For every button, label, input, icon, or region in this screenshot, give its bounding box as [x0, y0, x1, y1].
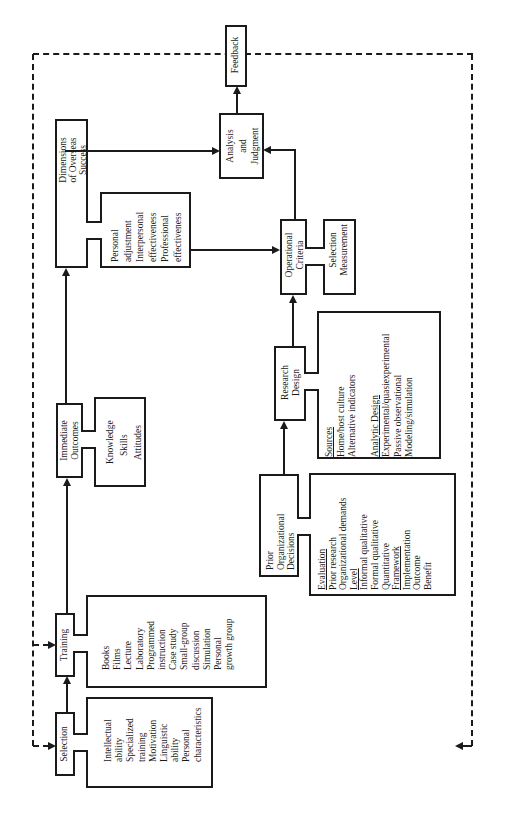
selection-connector — [73, 733, 88, 752]
research-design-label: Research Design — [280, 355, 302, 410]
feedback-loop-top — [33, 53, 473, 55]
detail-item: growth group — [224, 600, 235, 670]
detail-item: Motivation — [148, 692, 159, 762]
detail-item: Specialized — [125, 692, 136, 762]
detail-item: Books — [101, 600, 112, 670]
feedback-loop-to-training — [33, 644, 49, 646]
detail-item: ability — [170, 692, 181, 762]
label-line: of Overseas — [68, 120, 78, 200]
edge-operational-analysis-h — [270, 149, 296, 151]
arrow-into-immediate-outcomes — [63, 478, 71, 486]
feedback-loop-to-selection — [33, 745, 49, 747]
section-heading-level: Level — [349, 470, 360, 590]
label-line: Immediate — [59, 404, 70, 477]
detail-item: Implementation — [402, 470, 413, 590]
detail-item: instruction — [157, 600, 168, 670]
selection-details: Intellectual ability Specialized trainin… — [103, 692, 204, 762]
training-details: Books Films Lecture Laboratory Programme… — [101, 600, 235, 670]
arrow-into-analysis-right — [263, 146, 271, 154]
section-heading-framework: Framework — [391, 470, 402, 590]
operational-connector — [305, 247, 325, 266]
detail-item: Organizational demands — [338, 470, 349, 590]
label-line: Research — [280, 355, 291, 410]
detail-item: adjustment — [122, 192, 135, 262]
operational-details: Selection Measurement — [328, 220, 350, 280]
detail-item: Case study — [168, 600, 179, 670]
arrow-into-feedback — [233, 86, 241, 94]
label-line: Analysis — [224, 115, 237, 177]
label-line: Operational — [284, 226, 295, 284]
detail-item: Professional — [159, 192, 172, 262]
immediate-outcomes-details: Knowledge Skills Attitudes — [103, 410, 145, 470]
detail-item: Formal qualitative — [370, 470, 381, 590]
training-connector — [73, 634, 88, 653]
detail-item: discussion — [191, 600, 202, 670]
arrow-into-operational-bottom — [289, 295, 297, 303]
operational-criteria-label: Operational Criteria — [284, 226, 306, 284]
edge-dimensions-analysis-stub — [65, 150, 67, 152]
label-line: Outcomes — [70, 404, 81, 477]
label-line: Decisions — [286, 478, 297, 570]
detail-item: Skills — [117, 410, 131, 470]
training-label: Training — [59, 614, 70, 676]
spacer — [359, 317, 370, 457]
analysis-judgment-label: Analysis and Judgment — [224, 115, 262, 177]
edge-dimensions-analysis — [65, 150, 213, 152]
detail-item: Benefit — [423, 470, 434, 590]
feedback-loop-right — [471, 54, 473, 746]
arrow-into-research-design — [280, 421, 288, 429]
detail-item: Lecture — [123, 600, 134, 670]
edge-immediate-dimensions — [65, 275, 67, 404]
detail-item: Personal — [181, 692, 192, 762]
edge-selection-training — [66, 683, 68, 713]
prior-decisions-details: Evaluation Prior research Organizational… — [317, 470, 434, 590]
edge-analysis-feedback — [236, 92, 238, 114]
label-line: Design — [291, 355, 302, 410]
dimensions-connector — [86, 221, 102, 240]
section-heading-sources: Sources — [324, 317, 336, 457]
detail-item: Simulation — [202, 600, 213, 670]
prior-decisions-label: Prior Organizational Decisions — [265, 478, 297, 570]
detail-item: Knowledge — [103, 410, 117, 470]
detail-item: Personal — [213, 600, 224, 670]
selection-label: Selection — [59, 713, 70, 775]
edge-dimensions-operational — [190, 249, 273, 251]
detail-item: Interpersonal — [134, 192, 147, 262]
prior-decisions-connector — [297, 517, 311, 536]
feedback-loop-to-prior-decisions — [462, 745, 472, 747]
label-line: Success — [78, 120, 88, 200]
research-connector — [304, 372, 319, 391]
edge-operational-analysis-v — [294, 149, 296, 221]
detail-item: Prior research — [328, 470, 339, 590]
detail-item: Outcome — [412, 470, 423, 590]
detail-item: effectiveness — [172, 192, 185, 262]
detail-item: training — [137, 692, 148, 762]
detail-item: characteristics — [193, 692, 204, 762]
detail-item: Selection — [328, 220, 339, 280]
arrow-into-operational — [272, 246, 280, 254]
label-line: Organizational — [276, 478, 287, 570]
label-line: Judgment — [249, 115, 262, 177]
section-heading-evaluation: Evaluation — [317, 470, 328, 590]
dimensions-details: Personal adjustment Interpersonal effect… — [109, 192, 184, 262]
detail-item: Passive observational — [393, 317, 405, 457]
detail-item: Intellectual — [103, 692, 114, 762]
edge-training-immediate-outcomes — [66, 485, 68, 614]
detail-item: Programmed — [146, 600, 157, 670]
detail-item: Quantitative — [381, 470, 392, 590]
feedback-label: Feedback — [230, 27, 241, 83]
section-heading-analytic-design: Analytic Design — [370, 317, 382, 457]
detail-item: Informal qualitative — [359, 470, 370, 590]
detail-item: ability — [114, 692, 125, 762]
detail-item: Measurement — [339, 220, 350, 280]
detail-item: Personal — [109, 192, 122, 262]
arrow-into-training-bottom — [63, 676, 71, 684]
edge-prior-research — [283, 428, 285, 475]
research-details: Sources Home/host culture Alternative in… — [324, 317, 416, 457]
immediate-outcomes-connector — [81, 430, 96, 449]
arrow-into-prior-decisions — [455, 742, 463, 750]
dimensions-label: Dimensions of Overseas Success — [58, 120, 88, 200]
label-line: Criteria — [295, 226, 306, 284]
edge-research-operational — [292, 302, 294, 347]
label-line: and — [237, 115, 250, 177]
